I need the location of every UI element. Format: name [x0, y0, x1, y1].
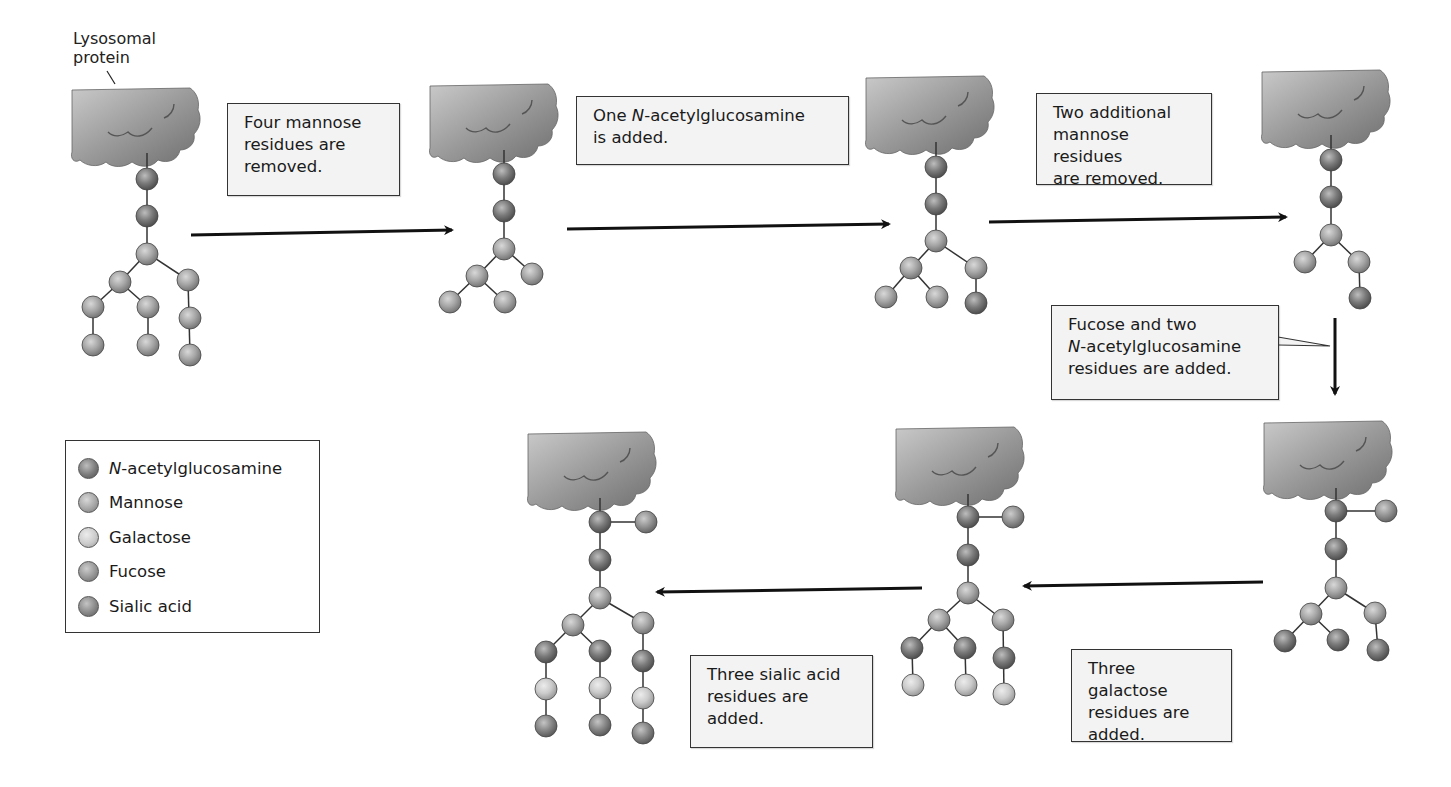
nag-residue-icon — [1349, 287, 1371, 309]
legend-item-fucose: Fucose — [78, 555, 319, 590]
mannose-residue-icon — [177, 269, 199, 291]
legend: N-acetylglucosamine Mannose Galactose Fu… — [65, 440, 320, 633]
lysosomal-protein-icon — [429, 84, 558, 163]
galactose-residue-icon — [535, 678, 557, 700]
lysosomal-protein-icon — [71, 88, 200, 167]
legend-label: Fucose — [109, 562, 166, 581]
mannose-residue-icon — [439, 291, 461, 313]
mannose-residue-icon — [82, 296, 104, 318]
oligosaccharide-structure-1 — [71, 88, 201, 366]
nag-residue-icon — [925, 156, 947, 178]
legend-text: -acetylglucosamine — [121, 459, 282, 478]
arrow-step-2 — [567, 224, 889, 229]
sialic-acid-residue-icon — [589, 714, 611, 736]
oligosaccharide-structure-2 — [429, 84, 558, 313]
oligosaccharide-structure-3 — [865, 76, 994, 314]
nag-residue-icon — [1367, 639, 1389, 661]
caption-line: Three galactose — [1088, 658, 1219, 702]
oligosaccharide-structure-5 — [1263, 421, 1397, 661]
caption-line: added. — [707, 708, 860, 730]
mannose-residue-icon — [900, 257, 922, 279]
caption-line: is added. — [593, 127, 836, 149]
nag-residue-icon — [925, 193, 947, 215]
oligosaccharide-structure-7 — [527, 432, 657, 744]
step-3-caption: Two additional mannose residues are remo… — [1036, 93, 1212, 185]
sialic-acid-residue-icon — [535, 715, 557, 737]
mannose-residue-icon — [466, 265, 488, 287]
nag-residue-icon — [493, 200, 515, 222]
caption-italic: N — [1068, 337, 1080, 356]
mannose-residue-icon — [137, 296, 159, 318]
caption-italic: N — [632, 106, 644, 125]
mannose-residue-icon — [928, 609, 950, 631]
caption-line: removed. — [244, 156, 387, 178]
galactose-residue-icon — [955, 674, 977, 696]
caption-line: N-acetylglucosamine — [1068, 336, 1266, 358]
arrow-step-3 — [989, 217, 1286, 222]
nag-residue-icon — [1320, 149, 1342, 171]
legend-italic: N — [109, 459, 121, 478]
mannose-residue-icon — [137, 334, 159, 356]
lysosomal-protein-icon — [895, 427, 1024, 506]
nag-residue-icon — [1274, 630, 1296, 652]
oligosaccharide-structure-4 — [1261, 70, 1390, 309]
nag-residue-icon — [954, 637, 976, 659]
caption-line: added. — [1088, 724, 1219, 746]
lysosomal-protein-icon — [1261, 70, 1390, 149]
galactose-residue-icon — [632, 687, 654, 709]
mannose-residue-icon — [1325, 577, 1347, 599]
mannose-residue-icon — [632, 612, 654, 634]
nag-residue-icon — [589, 640, 611, 662]
sialic-acid-residue-icon — [632, 722, 654, 744]
caption-text: One — [593, 106, 632, 125]
legend-item-mannose: Mannose — [78, 486, 319, 521]
caption-line: One N-acetylglucosamine — [593, 105, 836, 127]
fucose-residue-icon — [1002, 506, 1024, 528]
sialic-acid-swatch-icon — [78, 596, 99, 617]
arrow-step-6 — [657, 588, 922, 592]
fucose-swatch-icon — [78, 561, 99, 582]
legend-label: Galactose — [109, 528, 191, 547]
nag-residue-icon — [901, 637, 923, 659]
mannose-residue-icon — [992, 609, 1014, 631]
caption-line: residues are added. — [1068, 358, 1266, 380]
mannose-residue-icon — [179, 307, 201, 329]
lysosomal-protein-icon — [527, 432, 656, 511]
step-4-caption: Fucose and two N-acetylglucosamine resid… — [1051, 305, 1279, 400]
arrow-step-5 — [1024, 582, 1263, 586]
nag-residue-icon — [632, 650, 654, 672]
step-6-caption: Three sialic acid residues are added. — [690, 655, 873, 748]
legend-item-sialic-acid: Sialic acid — [78, 589, 319, 624]
step-2-caption: One N-acetylglucosamine is added. — [576, 96, 849, 165]
arrow-step-1 — [191, 230, 452, 235]
nag-residue-icon — [993, 647, 1015, 669]
legend-item-nag: N-acetylglucosamine — [78, 451, 319, 486]
legend-label: Mannose — [109, 493, 183, 512]
mannose-residue-icon — [965, 257, 987, 279]
mannose-residue-icon — [1294, 251, 1316, 273]
caption-text: -acetylglucosamine — [644, 106, 805, 125]
lysosomal-protein-label: Lysosomal protein — [73, 29, 156, 68]
lysosomal-protein-icon — [1263, 421, 1392, 500]
nag-residue-icon — [589, 511, 611, 533]
nag-residue-icon — [493, 163, 515, 185]
mannose-residue-icon — [1320, 224, 1342, 246]
nag-residue-icon — [589, 549, 611, 571]
mannose-residue-icon — [1300, 603, 1322, 625]
mannose-residue-icon — [925, 230, 947, 252]
step-1-caption: Four mannose residues are removed. — [227, 103, 400, 196]
caption-line: Two additional — [1053, 102, 1199, 124]
caption-line: Four mannose — [244, 112, 387, 134]
galactose-residue-icon — [589, 677, 611, 699]
mannose-swatch-icon — [78, 492, 99, 513]
nag-residue-icon — [1325, 500, 1347, 522]
mannose-residue-icon — [521, 263, 543, 285]
caption-line: mannose residues — [1053, 124, 1199, 168]
nag-residue-icon — [965, 292, 987, 314]
mannose-residue-icon — [136, 243, 158, 265]
mannose-residue-icon — [82, 334, 104, 356]
nag-residue-icon — [136, 205, 158, 227]
legend-label: N-acetylglucosamine — [109, 459, 282, 478]
label-line-2: protein — [73, 48, 156, 68]
mannose-residue-icon — [926, 286, 948, 308]
